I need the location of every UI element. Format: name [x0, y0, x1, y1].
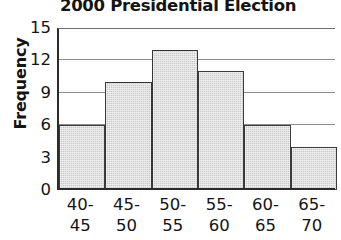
bar-series	[59, 29, 335, 190]
y-tick-label: 6	[7, 117, 51, 134]
x-tick-label-line: 50-	[150, 194, 196, 215]
x-tick-label-line: 45-	[103, 194, 149, 215]
x-tick-label-line: 45	[57, 215, 103, 236]
bar-slot	[244, 29, 290, 190]
bar	[152, 50, 198, 190]
plot-area	[57, 28, 335, 190]
x-tick-label-line: 60-	[242, 194, 288, 215]
x-tick-label-line: 55	[150, 215, 196, 236]
x-tick-label-line: 60	[196, 215, 242, 236]
x-tick-label: 45-50	[103, 194, 149, 236]
bar	[244, 125, 290, 190]
y-tick-label: 9	[7, 85, 51, 102]
x-tick-label-line: 65-	[289, 194, 335, 215]
bar	[59, 125, 105, 190]
x-tick-label-line: 40-	[57, 194, 103, 215]
x-tick-label-line: 65	[242, 215, 288, 236]
bar	[105, 82, 151, 190]
x-tick-label-line: 50	[103, 215, 149, 236]
x-axis-line	[59, 188, 335, 190]
y-tick-label: 12	[7, 52, 51, 69]
x-axis-tick-labels: 40-4545-5050-5555-6060-6565-70	[57, 194, 335, 236]
x-tick-label: 60-65	[242, 194, 288, 236]
bar-slot	[152, 29, 198, 190]
y-tick-label: 0	[7, 182, 51, 199]
y-axis-tick-labels: 15129630	[0, 28, 51, 190]
y-tick-label: 15	[7, 20, 51, 37]
plot-inner	[59, 29, 335, 190]
bar-slot	[105, 29, 151, 190]
x-tick-label-line: 70	[289, 215, 335, 236]
bar-slot	[198, 29, 244, 190]
x-tick-label: 50-55	[150, 194, 196, 236]
bar-slot	[291, 29, 337, 190]
y-tick-label: 3	[7, 150, 51, 167]
x-tick-label: 65-70	[289, 194, 335, 236]
x-tick-label: 55-60	[196, 194, 242, 236]
x-tick-label-line: 55-	[196, 194, 242, 215]
chart-title: 2000 Presidential Election	[60, 0, 341, 15]
bar	[291, 147, 337, 190]
bar-slot	[59, 29, 105, 190]
x-tick-label: 40-45	[57, 194, 103, 236]
bar	[198, 71, 244, 190]
